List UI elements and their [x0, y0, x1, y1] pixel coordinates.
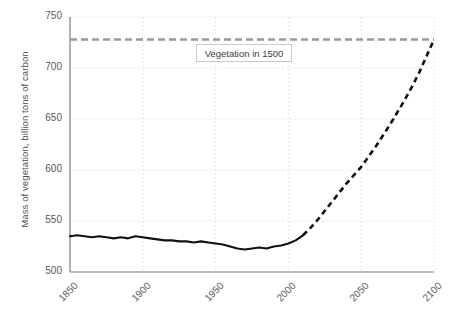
- annotation-vegetation-1500: Vegetation in 1500: [196, 44, 292, 62]
- series-line-projected: [303, 39, 434, 235]
- series-line-historical: [70, 235, 303, 249]
- y-tick-label: 550: [20, 214, 62, 225]
- y-tick-label: 700: [20, 61, 62, 72]
- y-tick-label: 750: [20, 10, 62, 21]
- annotation-text: Vegetation in 1500: [205, 48, 284, 59]
- chart-figure: Mass of vegetation, billion tons of carb…: [0, 0, 457, 316]
- y-tick-label: 600: [20, 163, 62, 174]
- y-tick-label: 500: [20, 265, 62, 276]
- y-tick-label: 650: [20, 112, 62, 123]
